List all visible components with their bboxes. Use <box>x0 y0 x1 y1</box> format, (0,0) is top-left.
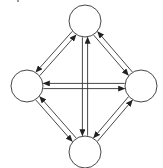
edge-top-to-right <box>94 35 129 75</box>
diagram-canvas <box>0 0 163 168</box>
node-circle <box>69 5 101 37</box>
edge-top-to-left <box>36 31 72 72</box>
node-left <box>11 70 43 102</box>
edge-left-to-top <box>40 35 76 76</box>
node-bottom <box>69 136 101 168</box>
node-circle <box>11 70 43 102</box>
stray-mark <box>17 0 19 2</box>
node-circle <box>69 136 101 168</box>
edges-layer <box>36 31 133 141</box>
node-top <box>69 5 101 37</box>
edge-bottom-to-left <box>40 97 76 139</box>
node-circle <box>125 70 157 102</box>
edge-right-to-top <box>98 32 133 72</box>
node-right <box>125 70 157 102</box>
edge-right-to-bottom <box>94 97 129 138</box>
edge-bottom-to-right <box>98 100 133 141</box>
edge-left-to-bottom <box>36 100 73 142</box>
nodes-layer <box>11 5 157 168</box>
